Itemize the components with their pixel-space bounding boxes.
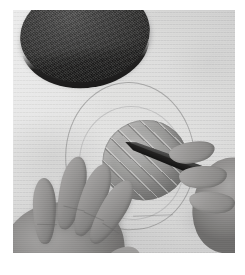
right-hand [171,136,235,253]
right-hand-finger-index [168,139,217,167]
photograph-frame [0,0,245,275]
photograph-image [13,10,235,253]
left-hand [13,158,147,253]
